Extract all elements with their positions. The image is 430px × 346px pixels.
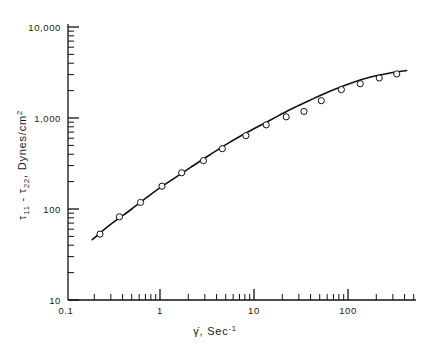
data-point-marker [394, 71, 400, 77]
x-axis-comma: , [199, 325, 207, 337]
y-axis-unit-exponent: 2 [15, 110, 24, 115]
data-point-marker [301, 108, 307, 114]
y-axis-minus: - [16, 193, 28, 205]
x-tick-label: 0.1 [58, 305, 73, 316]
x-axis-unit-exponent: -1 [229, 324, 237, 333]
data-point-marker [97, 231, 103, 237]
y-tick-label: 1,000 [34, 113, 61, 124]
y-axis-sub-11: 11 [22, 205, 31, 214]
axes-group [68, 24, 416, 300]
x-tick-label: 100 [339, 305, 357, 316]
x-tick-label: 1 [157, 305, 163, 316]
y-tick-label: 10,000 [28, 22, 61, 33]
data-point-marker [263, 122, 269, 128]
data-point-marker [137, 199, 143, 205]
y-tick-label: 10 [49, 295, 61, 306]
data-point-marker [219, 146, 225, 152]
x-tick-label: 10 [248, 305, 260, 316]
data-point-marker [179, 170, 185, 176]
fitted-curve [92, 71, 406, 240]
data-point-marker [200, 158, 206, 164]
y-axis-sub-22: 22 [22, 178, 31, 188]
data-point-marker [159, 183, 165, 189]
data-point-marker [243, 133, 249, 139]
data-point-marker [318, 98, 324, 104]
svg-text:γ̇, Sec-1: γ̇, Sec-1 [193, 324, 237, 337]
x-axis-tick-labels: 0.1110100 [58, 305, 356, 316]
log-log-plot-canvas: 101001,00010,000 0.1110100 γ̇, Sec-1 τ11… [0, 0, 430, 346]
data-point-marker [283, 114, 289, 120]
svg-text:τ11 - τ22, Dynes/cm2: τ11 - τ22, Dynes/cm2 [15, 110, 31, 220]
y-tick-label: 100 [43, 204, 61, 215]
y-axis-title: τ11 - τ22, Dynes/cm2 [15, 110, 31, 220]
data-point-marker [338, 87, 344, 93]
y-axis-tick-labels: 101001,00010,000 [28, 22, 61, 306]
x-axis-ticks [94, 289, 413, 300]
x-axis-unit: Sec [207, 325, 228, 337]
data-point-marker [357, 81, 363, 87]
x-axis-title: γ̇, Sec-1 [193, 324, 237, 337]
data-point-group [97, 71, 400, 237]
chart-figure: 101001,00010,000 0.1110100 γ̇, Sec-1 τ11… [0, 0, 430, 346]
data-point-marker [376, 75, 382, 81]
data-point-marker [116, 214, 122, 220]
y-axis-unit-text: , Dynes/cm [16, 115, 28, 178]
y-axis-ticks [68, 27, 79, 300]
